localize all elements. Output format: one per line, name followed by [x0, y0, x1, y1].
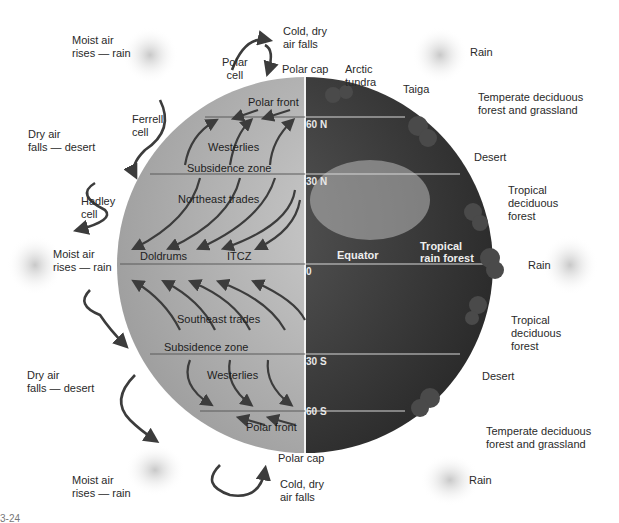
line: Cold, dry — [280, 478, 324, 491]
rain-label-bottom: Rain — [469, 474, 492, 487]
polar-cap-label-bottom: Polar cap — [278, 452, 324, 465]
line: forest — [508, 210, 558, 223]
line: air falls — [280, 491, 324, 504]
line: cell — [81, 208, 115, 221]
line: cell — [132, 126, 163, 139]
line: Cold, dry — [283, 25, 327, 38]
polar-front-n-label: Polar front — [248, 96, 299, 109]
line: rain forest — [420, 252, 474, 264]
rain-label-mid: Rain — [528, 259, 551, 272]
lat-60n: 60 N — [306, 119, 327, 130]
desert-n-label: Desert — [474, 151, 506, 164]
westerlies-n-label: Westerlies — [208, 141, 259, 154]
temperate-n-label: Temperate deciduousforest and grassland — [478, 91, 583, 117]
lat-60s: 60 S — [306, 406, 327, 417]
equator-label: Equator — [337, 249, 379, 261]
tropical-dec-s-label: Tropicaldeciduousforest — [511, 314, 561, 353]
subsidence-n-label: Subsidence zone — [187, 162, 271, 175]
subsidence-s-label: Subsidence zone — [164, 341, 248, 354]
line: cell — [222, 69, 248, 82]
taiga-label: Taiga — [403, 83, 429, 96]
polar-cell-label: Polarcell — [222, 56, 248, 82]
polar-front-s-label: Polar front — [246, 421, 297, 434]
polar-cap-label-top: Polar cap — [282, 63, 328, 76]
dry-air-label-top: Dry airfalls — desert — [28, 128, 95, 154]
line: Tropical — [511, 314, 561, 327]
line: Moist air — [53, 248, 112, 261]
lat-0: 0 — [306, 266, 312, 277]
tropical-dec-n-label: Tropicaldeciduousforest — [508, 184, 558, 223]
line: forest and grassland — [478, 104, 583, 117]
line: Hadley — [81, 195, 115, 208]
lat-30n: 30 N — [306, 176, 327, 187]
line: Tropical — [508, 184, 558, 197]
moist-air-label-mid: Moist airrises — rain — [53, 248, 112, 274]
temperate-s-label: Temperate deciduousforest and grassland — [486, 425, 591, 451]
line: Temperate deciduous — [478, 91, 583, 104]
line: rises — rain — [72, 47, 131, 60]
desert-s-label: Desert — [482, 370, 514, 383]
line: Moist air — [72, 34, 131, 47]
line: forest — [511, 340, 561, 353]
line: tundra — [345, 76, 376, 89]
line: forest and grassland — [486, 438, 591, 451]
itcz-label: ITCZ — [227, 250, 251, 263]
ferrell-cell-label: Ferrellcell — [132, 113, 163, 139]
line: Ferrell — [132, 113, 163, 126]
westerlies-s-label: Westerlies — [207, 369, 258, 382]
hadley-cell-label: Hadleycell — [81, 195, 115, 221]
moist-air-label-bottom: Moist airrises — rain — [72, 474, 131, 500]
line: Arctic — [345, 63, 376, 76]
line: Dry air — [27, 369, 94, 382]
arctic-tundra-label: Arctictundra — [345, 63, 376, 89]
moist-air-label-top: Moist airrises — rain — [72, 34, 131, 60]
line: deciduous — [508, 197, 558, 210]
line: air falls — [283, 38, 327, 51]
se-trades-label: Southeast trades — [177, 313, 260, 326]
line: deciduous — [511, 327, 561, 340]
line: Dry air — [28, 128, 95, 141]
line: Temperate deciduous — [486, 425, 591, 438]
line: falls — desert — [27, 382, 94, 395]
line: Moist air — [72, 474, 131, 487]
lat-30s: 30 S — [306, 356, 327, 367]
tropical-rainforest-label: Tropicalrain forest — [420, 240, 474, 264]
line: rises — rain — [53, 261, 112, 274]
line: rises — rain — [72, 487, 131, 500]
dry-air-label-bottom: Dry airfalls — desert — [27, 369, 94, 395]
doldrums-label: Doldrums — [140, 250, 187, 263]
line: Polar — [222, 56, 248, 69]
figure-number-fragment: 3-24 — [0, 512, 20, 523]
line: falls — desert — [28, 141, 95, 154]
rain-label-top: Rain — [470, 46, 493, 59]
cold-dry-label-top: Cold, dryair falls — [283, 25, 327, 51]
line: Tropical — [420, 240, 474, 252]
ne-trades-label: Northeast trades — [178, 193, 259, 206]
cold-dry-label-bottom: Cold, dryair falls — [280, 478, 324, 504]
